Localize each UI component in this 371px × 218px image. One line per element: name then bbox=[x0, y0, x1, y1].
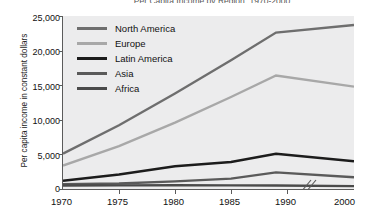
y-tick-label: 5,000 bbox=[20, 152, 60, 161]
legend-swatch bbox=[77, 57, 107, 60]
legend-label: Europe bbox=[115, 39, 146, 49]
legend-item-europe: Europe bbox=[77, 36, 217, 51]
legend-item-north-america: North America bbox=[77, 21, 217, 36]
legend-swatch bbox=[77, 87, 107, 90]
x-tick-label: 1970 bbox=[51, 197, 72, 207]
chart-title: Per Capita Income by Region, 1970-2000 bbox=[62, 0, 362, 3]
x-tick-label: 1975 bbox=[107, 197, 128, 207]
plot-area: North America Europe Latin America Asia … bbox=[62, 16, 354, 190]
legend-label: North America bbox=[115, 24, 175, 34]
y-tick-label: 0 bbox=[20, 185, 60, 194]
legend-label: Latin America bbox=[115, 54, 173, 64]
y-tick-label: 15,000 bbox=[20, 83, 60, 92]
legend-item-latin-america: Latin America bbox=[77, 51, 217, 66]
y-axis-tick-labels: 25,000 20,000 15,000 10,000 5,000 0 bbox=[14, 0, 60, 218]
x-tick-label: 1985 bbox=[219, 197, 240, 207]
legend-label: Asia bbox=[115, 69, 133, 79]
legend-label: Africa bbox=[115, 84, 139, 94]
chart-legend: North America Europe Latin America Asia … bbox=[77, 21, 217, 96]
y-tick-label: 20,000 bbox=[20, 48, 60, 57]
legend-swatch bbox=[77, 27, 107, 30]
series-line bbox=[63, 172, 354, 184]
legend-item-asia: Asia bbox=[77, 66, 217, 81]
x-tick-label: 1980 bbox=[163, 197, 184, 207]
x-tick-label: 1990 bbox=[275, 197, 296, 207]
chart-container: Per Capita Income by Region, 1970-2000 P… bbox=[0, 0, 371, 218]
y-tick-label: 25,000 bbox=[20, 14, 60, 23]
legend-swatch bbox=[77, 72, 107, 75]
legend-item-africa: Africa bbox=[77, 81, 217, 96]
x-tick-label: 2000 bbox=[334, 197, 355, 207]
y-tick-label: 10,000 bbox=[20, 117, 60, 126]
series-line bbox=[63, 154, 354, 181]
legend-swatch bbox=[77, 42, 107, 45]
